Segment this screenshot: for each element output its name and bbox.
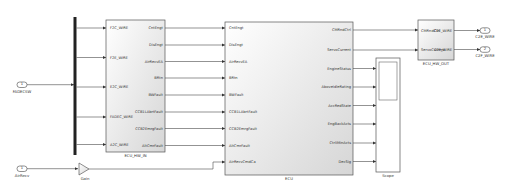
- ecu-input-label: AltCmrFault: [229, 144, 250, 148]
- ecu-output-label: EngBackActs: [300, 122, 351, 126]
- hw-in-output-label: CCB2EmrgFault: [120, 127, 163, 131]
- gain-label: Gain: [70, 176, 100, 181]
- hw-in-output-label: BWFault: [120, 93, 163, 97]
- inport-fadecsw-label: FADECSW: [4, 89, 40, 94]
- ecu-to-hw-out-signals[interactable]: [353, 30, 418, 50]
- hw-in-output-label: AltCmrFault: [120, 144, 163, 148]
- ecu-output-label: EngineStatus: [300, 67, 351, 71]
- outport-c2e-number: 1: [480, 28, 490, 33]
- ecu-output-label: CMRndCtrl: [300, 28, 351, 32]
- outport-c2e-label: C2E_WIRE: [470, 34, 500, 39]
- ecu-input-label: CntEngt: [229, 26, 243, 30]
- gain-block[interactable]: [79, 163, 89, 175]
- ecu-output-label: DecSig: [300, 160, 351, 164]
- bus-signals[interactable]: [77, 28, 107, 145]
- outport-c2f-label: C2F_WIRE: [470, 53, 500, 58]
- hw-in-output-label: BRtn: [120, 76, 163, 80]
- ecu-input-label: BRtn: [229, 76, 238, 80]
- hw-in-output-label: CCB1LAbrtFault: [120, 110, 163, 114]
- ecu-hw-out-block[interactable]: [418, 20, 454, 60]
- bus-selector-bar[interactable]: [74, 17, 77, 155]
- inport-fadecsw-number: 1: [17, 82, 27, 87]
- ecu-name: ECU: [225, 176, 353, 181]
- ecu-output-label: ServoCurrent: [300, 48, 351, 52]
- scope-block[interactable]: [376, 58, 400, 172]
- ecu-input-label: BWFault: [229, 93, 244, 97]
- ecu-input-label: AirRecvCmdCa: [229, 160, 256, 164]
- ecu-input-label: CCB2EmrgFault: [229, 127, 257, 131]
- hw-in-output-label: DisEngt: [120, 43, 163, 47]
- ecu-to-scope-signals[interactable]: [353, 69, 376, 162]
- ecu-input-label: CCB1LAbrtFault: [229, 110, 257, 114]
- ecu-block[interactable]: [225, 22, 353, 175]
- ecu-input-label: DisEngt: [229, 43, 243, 47]
- hw-in-to-ecu-signals[interactable]: [165, 28, 225, 146]
- hw-in-input-label: FADEC_WIRE: [110, 115, 133, 119]
- ecu-output-label: AboveIdleRating: [300, 85, 351, 89]
- ecu-hw-in-name: ECU_HW_IN: [106, 153, 165, 158]
- scope-name: Scope: [374, 173, 402, 178]
- outport-c2f-number: 2: [480, 47, 490, 52]
- ecu-hw-out-name: ECU_HW_OUT: [414, 61, 458, 66]
- hw-in-input-label: E2C_WIRE: [110, 85, 128, 89]
- scope-screen-icon: [379, 62, 397, 100]
- hw-in-output-label: AirRecvEA: [120, 60, 163, 64]
- hw-out-output-label: C2F_WIRE: [428, 48, 452, 52]
- ecu-input-label: AirRecvEA: [229, 60, 247, 64]
- ecu-output-label: AccRedState: [300, 104, 351, 108]
- signal-gain-out[interactable]: [89, 162, 225, 169]
- inport-airrecv-label: AirRecv: [4, 173, 40, 178]
- hw-in-output-label: CntEngt: [120, 26, 163, 30]
- inport-airrecv-number: 1: [17, 166, 27, 171]
- hw-out-output-label: C2E_WIRE: [428, 29, 452, 33]
- ecu-output-label: CtrlIMinActs: [300, 141, 351, 145]
